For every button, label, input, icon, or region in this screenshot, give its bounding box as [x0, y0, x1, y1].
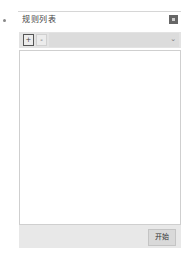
- remove-rule-button[interactable]: -: [36, 34, 47, 46]
- top-divider: [18, 11, 181, 12]
- bullet-dot-icon: [3, 19, 6, 22]
- panel-close-button[interactable]: [169, 15, 178, 24]
- list-toolbar: + - ⌄: [19, 32, 181, 48]
- start-button[interactable]: 开始: [148, 229, 176, 246]
- footer-bar: 开始: [19, 225, 181, 248]
- add-rule-button[interactable]: +: [23, 34, 34, 46]
- rule-list[interactable]: [19, 50, 181, 225]
- panel-title: 规则列表: [22, 14, 56, 26]
- chevron-down-icon: ⌄: [170, 35, 176, 43]
- rule-select-dropdown[interactable]: ⌄: [49, 33, 179, 47]
